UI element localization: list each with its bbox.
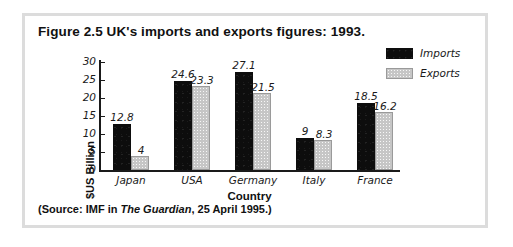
bar-group: 27.121.5	[235, 62, 271, 170]
source-publication: The Guardian	[121, 203, 192, 215]
bar-germany-exports: 21.5	[253, 93, 271, 170]
bar-italy-exports: 8.3	[314, 140, 332, 170]
y-axis-tick-label: 20	[74, 91, 96, 103]
bar-value-label: 4	[126, 144, 156, 156]
y-axis-tick-label: 15	[74, 109, 96, 121]
legend-label-imports: Imports	[420, 47, 460, 59]
y-axis-tick-label: 30	[74, 55, 96, 67]
x-axis-title: Country	[99, 190, 400, 202]
y-axis-tick-label: 25	[74, 73, 96, 85]
figure-source-note: (Source: IMF in The Guardian, 25 April 1…	[38, 203, 272, 215]
bar-usa-imports: 24.6	[174, 81, 192, 170]
bar-france-imports: 18.5	[357, 103, 375, 170]
bar-italy-imports: 9	[296, 138, 314, 170]
bar-group: 12.84	[113, 62, 149, 170]
category-label-france: France	[340, 174, 410, 186]
bar-usa-exports: 23.3	[192, 86, 210, 170]
category-label-italy: Italy	[279, 174, 349, 186]
bar-value-label: 12.8	[107, 111, 137, 123]
legend-label-exports: Exports	[420, 67, 460, 79]
y-axis-tick-label: 10	[74, 127, 96, 139]
bar-group: 98.3	[296, 62, 332, 170]
plot-area: 12.8424.623.327.121.598.318.516.2	[100, 62, 400, 170]
figure-container: Figure 2.5 UK's imports and exports figu…	[0, 0, 513, 247]
y-axis-tick-label: 0	[74, 163, 96, 175]
bar-value-label: 21.5	[248, 81, 278, 93]
category-label-japan: Japan	[96, 174, 166, 186]
category-label-germany: Germany	[218, 174, 288, 186]
bar-group: 24.623.3	[174, 62, 210, 170]
legend-swatch-imports	[386, 48, 413, 59]
legend-swatch-exports	[386, 68, 413, 79]
x-axis-line	[99, 170, 400, 172]
y-axis-tick-label: 5	[74, 145, 96, 157]
source-prefix: (Source: IMF in	[38, 203, 121, 215]
bar-value-label: 16.2	[370, 100, 400, 112]
source-suffix: , 25 April 1995.)	[191, 203, 271, 215]
bar-value-label: 23.3	[187, 74, 217, 86]
category-label-usa: USA	[157, 174, 227, 186]
bar-japan-exports: 4	[131, 156, 149, 170]
bar-france-exports: 16.2	[375, 112, 393, 170]
bar-value-label: 27.1	[229, 59, 259, 71]
bar-value-label: 8.3	[309, 128, 339, 140]
